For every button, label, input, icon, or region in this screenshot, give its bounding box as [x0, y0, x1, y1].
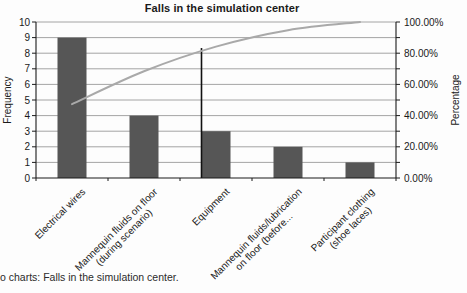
frequency-tick-label: 1 — [0, 157, 30, 168]
bar-2 — [130, 116, 159, 178]
frequency-tick-label: 0 — [0, 173, 30, 184]
cumulative-percentage-line — [72, 22, 360, 104]
bar-5 — [346, 162, 375, 178]
frequency-tick-label: 10 — [0, 17, 30, 28]
percentage-tick-label: 20.00% — [404, 141, 464, 152]
frequency-tick-label: 8 — [0, 48, 30, 59]
percentage-tick-label: 100.00% — [404, 17, 464, 28]
figure-caption: o charts: Falls in the simulation center… — [0, 271, 179, 283]
pareto-chart-figure: Falls in the simulation center 012345678… — [0, 0, 467, 293]
bar-3 — [202, 131, 231, 178]
percentage-tick-label: 0.00% — [404, 173, 464, 184]
y-axis-title-percentage: Percentage — [450, 70, 462, 130]
frequency-tick-label: 2 — [0, 141, 30, 152]
y-axis-title-frequency: Frequency — [2, 70, 14, 130]
frequency-tick-label: 9 — [0, 32, 30, 43]
bar-4 — [274, 147, 303, 178]
bar-1 — [58, 38, 87, 178]
percentage-tick-label: 80.00% — [404, 48, 464, 59]
